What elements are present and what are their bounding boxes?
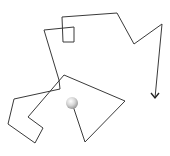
turtle-path-line xyxy=(8,13,162,143)
drawing-canvas xyxy=(0,0,170,156)
turtle-sphere xyxy=(66,97,78,109)
